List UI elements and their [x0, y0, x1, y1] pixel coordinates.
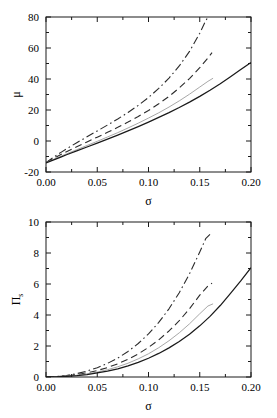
- chart-panel-mu: 0.000.050.100.150.20-20020406080σμ: [0, 0, 277, 208]
- x-axis-label: σ: [145, 399, 152, 413]
- y-tick-label: -20: [24, 166, 39, 178]
- figure-container: 0.000.050.100.150.20-20020406080σμ 0.000…: [0, 0, 277, 418]
- plot-frame: [46, 17, 251, 172]
- y-axis-label: μ: [9, 91, 23, 97]
- x-tick-label: 0.20: [241, 176, 261, 188]
- chart-svg-mu: 0.000.050.100.150.20-20020406080σμ: [0, 0, 277, 208]
- y-tick-label: 4: [34, 309, 40, 321]
- y-axis-label: Πs: [9, 294, 25, 306]
- series-curve-dash-dot: [46, 234, 210, 377]
- y-tick-label: 0: [34, 135, 40, 147]
- series-curve-dashed: [46, 53, 212, 163]
- y-tick-label: 60: [28, 42, 40, 54]
- series-curve-solid: [46, 63, 251, 163]
- y-axis-label-base: Π: [9, 296, 23, 305]
- x-tick-label: 0.00: [36, 381, 56, 393]
- x-tick-label: 0.05: [88, 381, 108, 393]
- y-tick-label: 2: [34, 340, 40, 352]
- chart-svg-pi: 0.000.050.100.150.200246810σΠs: [0, 208, 277, 418]
- y-tick-label: 80: [28, 11, 40, 23]
- y-tick-label: 8: [34, 247, 40, 259]
- x-tick-label: 0.15: [190, 381, 210, 393]
- x-axis-label: σ: [145, 194, 152, 208]
- x-tick-label: 0.10: [139, 176, 159, 188]
- series-group: [46, 234, 251, 377]
- tick-group: 0.000.050.100.150.200246810: [28, 216, 261, 393]
- series-curve-solid: [46, 268, 251, 377]
- series-curve-dash-dot: [46, 17, 208, 163]
- y-tick-label: 6: [34, 278, 40, 290]
- x-tick-label: 0.20: [241, 381, 261, 393]
- x-tick-label: 0.05: [88, 176, 108, 188]
- series-group: [46, 17, 251, 163]
- y-tick-label: 20: [28, 104, 40, 116]
- plot-area: [46, 222, 251, 377]
- y-tick-label: 10: [28, 216, 40, 228]
- x-tick-label: 0.00: [36, 176, 56, 188]
- y-axis-label-base: μ: [9, 91, 23, 97]
- y-axis-label-subscript: s: [16, 294, 25, 297]
- plot-area: [46, 17, 251, 172]
- chart-panel-pi: 0.000.050.100.150.200246810σΠs: [0, 208, 277, 418]
- y-tick-label: 40: [28, 73, 40, 85]
- x-tick-label: 0.10: [139, 381, 159, 393]
- tick-group: 0.000.050.100.150.20-20020406080: [24, 11, 261, 188]
- y-tick-label: 0: [34, 371, 40, 383]
- x-tick-label: 0.15: [190, 176, 210, 188]
- series-curve-light-solid: [46, 304, 213, 377]
